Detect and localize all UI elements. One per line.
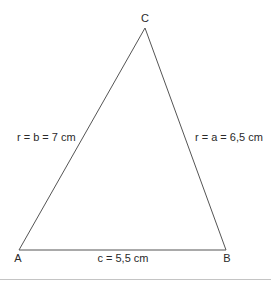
vertex-label-c: C bbox=[141, 12, 149, 24]
side-label-a: r = a = 6,5 cm bbox=[195, 131, 263, 143]
side-label-c: c = 5,5 cm bbox=[97, 252, 148, 264]
vertex-label-a: A bbox=[14, 252, 22, 264]
side-label-b: r = b = 7 cm bbox=[17, 131, 76, 143]
vertex-label-b: B bbox=[223, 252, 230, 264]
triangle-diagram: C A B r = b = 7 cm r = a = 6,5 cm c = 5,… bbox=[0, 0, 271, 285]
